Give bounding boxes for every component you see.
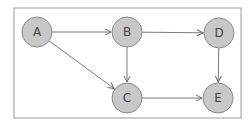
node-label: A: [33, 25, 42, 39]
node-b: B: [112, 17, 142, 47]
node-a: A: [22, 17, 52, 47]
node-label: E: [214, 91, 222, 105]
edge-d-to-e: [218, 48, 219, 82]
node-label: C: [123, 91, 131, 105]
node-d: D: [204, 18, 234, 48]
node-label: B: [123, 25, 131, 39]
node-e: E: [203, 83, 233, 113]
node-label: D: [214, 26, 223, 40]
node-c: C: [112, 83, 142, 113]
graph-canvas: ABDCE: [0, 0, 252, 124]
